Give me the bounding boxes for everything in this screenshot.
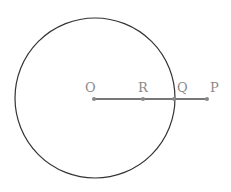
point-q	[172, 97, 176, 101]
point-r	[141, 97, 145, 101]
point-o	[92, 97, 96, 101]
label-o: O	[85, 80, 96, 95]
label-q: Q	[177, 80, 188, 95]
diagram-canvas: O R Q P	[0, 0, 231, 192]
point-p	[205, 97, 209, 101]
label-r: R	[138, 80, 149, 95]
label-p: P	[210, 80, 219, 95]
